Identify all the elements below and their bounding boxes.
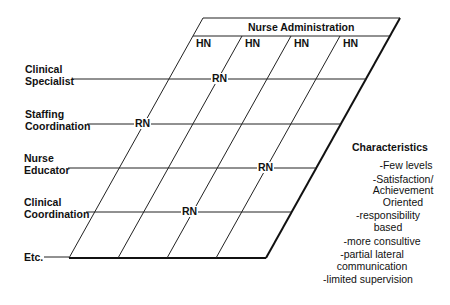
row-label-clinical-specialist: Clinical Specialist bbox=[25, 63, 74, 87]
characteristic-item: -limited supervision bbox=[286, 274, 450, 286]
row-label-nurse-educator: Nurse Educator bbox=[24, 152, 70, 176]
column-divider bbox=[167, 36, 291, 258]
characteristic-item: -Satisfaction/ Achievement Oriented bbox=[356, 174, 450, 209]
row-label-etc: Etc. bbox=[24, 251, 43, 263]
column-header-hn: HN bbox=[196, 37, 211, 49]
characteristic-item: -more consultive bbox=[314, 236, 450, 248]
row-label-staffing-coordination: Staffing Coordination bbox=[25, 108, 90, 132]
characteristic-item: -responsibility based bbox=[326, 210, 450, 233]
header-title: Nurse Administration bbox=[248, 21, 354, 33]
rn-marker-clinical-specialist: RN bbox=[211, 73, 228, 84]
column-header-hn: HN bbox=[343, 37, 358, 49]
characteristic-item: -partial lateral communication bbox=[294, 249, 450, 272]
rn-marker-nurse-educator: RN bbox=[257, 162, 274, 173]
row-label-clinical-coordination: Clinical Coordination bbox=[24, 196, 89, 220]
characteristic-item: -Few levels bbox=[362, 160, 450, 172]
left-edge bbox=[69, 18, 203, 258]
characteristics-title: Characteristics bbox=[352, 141, 428, 153]
characteristics-list: -Few levels -Satisfaction/ Achievement O… bbox=[322, 160, 450, 288]
column-header-hn: HN bbox=[245, 37, 260, 49]
rn-marker-staffing-coordination: RN bbox=[134, 118, 151, 129]
column-header-hn: HN bbox=[294, 37, 309, 49]
column-divider bbox=[118, 36, 242, 258]
rn-marker-clinical-coordination: RN bbox=[181, 206, 198, 217]
